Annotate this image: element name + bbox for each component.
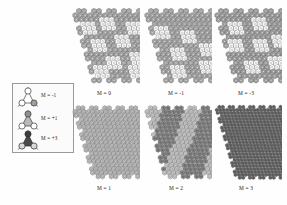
lattice-canvas xyxy=(210,6,282,86)
panel-label-bot-3: M = 3 xyxy=(210,185,282,191)
legend-row-0: M = -1 xyxy=(13,86,75,109)
lattice-canvas xyxy=(68,103,140,183)
motif-legend: M = -1 M = +1 xyxy=(12,83,74,153)
solid-trimer-icon xyxy=(17,130,39,151)
panel-label-bot-1: M = 1 xyxy=(68,185,140,191)
lattice-canvas xyxy=(68,6,140,86)
legend-row-2: M = +3 xyxy=(13,129,75,152)
legend-label-2: M = +3 xyxy=(41,135,58,141)
panel-label-top-3: M = -3 xyxy=(210,90,282,96)
lattice-canvas xyxy=(140,6,212,86)
panel-bot-2: M = 2 xyxy=(140,103,212,199)
lattice-canvas xyxy=(210,103,282,183)
panel-bot-3: M = 3 xyxy=(210,103,282,199)
legend-label-1: M = +1 xyxy=(41,115,58,121)
panel-top-2: M = -1 xyxy=(140,6,212,102)
panel-top-1: M = 0 xyxy=(68,6,140,102)
open-trimer-icon xyxy=(17,87,39,108)
half-trimer-icon xyxy=(17,110,39,131)
lattice-canvas xyxy=(140,103,212,183)
panel-label-bot-2: M = 2 xyxy=(140,185,212,191)
figure-root: M = -1 M = +1 xyxy=(0,0,287,205)
panel-bot-1: M = 1 xyxy=(68,103,140,199)
legend-label-0: M = -1 xyxy=(41,92,56,98)
panel-top-3: M = -3 xyxy=(210,6,282,102)
panel-label-top-1: M = 0 xyxy=(68,90,140,96)
panel-label-top-2: M = -1 xyxy=(140,90,212,96)
